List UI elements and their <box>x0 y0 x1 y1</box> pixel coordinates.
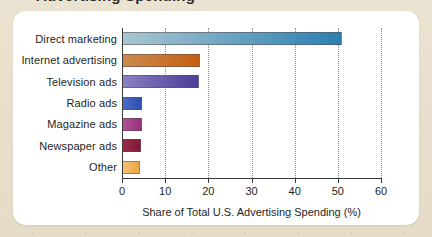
category-label: Television ads <box>47 76 118 88</box>
gridline-50 <box>338 28 340 178</box>
x-tick-label-20: 20 <box>202 185 214 197</box>
category-label: Magazine ads <box>47 118 117 130</box>
bar-row[interactable]: Other <box>123 161 140 174</box>
category-label: Radio ads <box>67 97 117 109</box>
category-label: Newspaper ads <box>39 140 117 152</box>
bar-row[interactable]: Internet advertising <box>123 54 200 67</box>
x-tick-label-40: 40 <box>289 185 301 197</box>
plot-area: Direct marketingInternet advertisingTele… <box>122 28 381 178</box>
x-tick-label-60: 60 <box>375 185 387 197</box>
chart-card: Direct marketingInternet advertisingTele… <box>13 11 419 225</box>
x-tick-label-0: 0 <box>119 185 125 197</box>
x-axis-title: Share of Total U.S. Advertising Spending… <box>122 206 381 218</box>
bar[interactable] <box>123 118 142 131</box>
bar-row[interactable]: Radio ads <box>123 97 142 110</box>
gridline-20 <box>208 28 210 178</box>
gridline-60 <box>381 28 383 178</box>
category-label: Other <box>89 161 117 173</box>
gridline-30 <box>252 28 254 178</box>
gridline-10 <box>165 28 167 178</box>
gridline-40 <box>295 28 297 178</box>
tick-mark-40 <box>295 178 296 183</box>
bar[interactable] <box>123 32 342 45</box>
tick-mark-60 <box>381 178 382 183</box>
tick-mark-30 <box>252 178 253 183</box>
x-tick-label-50: 50 <box>332 185 344 197</box>
category-label: Internet advertising <box>21 54 117 66</box>
bar-row[interactable]: Magazine ads <box>123 118 142 131</box>
bar-row[interactable]: Direct marketing <box>123 32 342 45</box>
bar-row[interactable]: Newspaper ads <box>123 139 141 152</box>
tick-mark-0 <box>122 178 123 183</box>
x-tick-label-10: 10 <box>159 185 171 197</box>
bar[interactable] <box>123 75 199 88</box>
category-label: Direct marketing <box>35 33 117 45</box>
tick-mark-20 <box>208 178 209 183</box>
bar[interactable] <box>123 161 140 174</box>
bar[interactable] <box>123 139 141 152</box>
tick-mark-10 <box>165 178 166 183</box>
bar-row[interactable]: Television ads <box>123 75 199 88</box>
tick-mark-50 <box>338 178 339 183</box>
x-tick-label-30: 30 <box>245 185 257 197</box>
bar[interactable] <box>123 97 142 110</box>
bar[interactable] <box>123 54 200 67</box>
